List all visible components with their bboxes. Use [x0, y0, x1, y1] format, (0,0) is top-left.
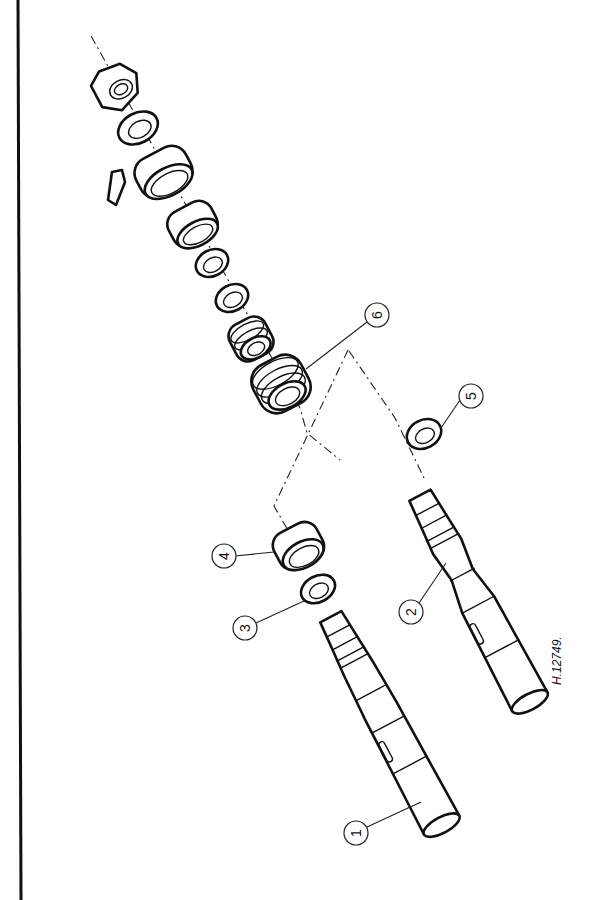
seal-ring-a — [191, 244, 233, 283]
exploded-parts-diagram: 1 2 3 4 5 6 H.12749. — [0, 0, 612, 900]
callout-2-label: 2 — [403, 608, 419, 616]
shaft-2-axis-line — [349, 351, 425, 480]
inner-bush — [162, 196, 224, 256]
callout-3: 3 — [233, 616, 257, 640]
callout-1-label: 1 — [348, 829, 364, 837]
part-1-shaft — [313, 607, 463, 841]
leader-line-3 — [256, 601, 304, 623]
leader-line-5 — [441, 400, 460, 428]
ribbed-seal — [224, 312, 278, 366]
callout-6-label: 6 — [369, 311, 385, 319]
leader-line-6 — [306, 322, 367, 369]
callout-4: 4 — [212, 544, 236, 568]
part-3-washer — [296, 569, 340, 609]
callout-4-label: 4 — [216, 552, 232, 560]
leader-line-2 — [419, 563, 446, 603]
callout-5: 5 — [459, 384, 483, 408]
callout-6: 6 — [365, 303, 389, 327]
seal-ring-b — [211, 279, 253, 318]
callout-3-label: 3 — [237, 624, 253, 632]
part-5-seal — [402, 413, 447, 455]
outer-bush — [129, 140, 200, 207]
part-4-bush — [268, 517, 331, 578]
figure-reference-code: H.12749. — [550, 636, 564, 685]
hex-nut — [87, 56, 149, 117]
callout-2: 2 — [399, 600, 423, 624]
callout-1: 1 — [344, 821, 368, 845]
part-2-shaft — [402, 486, 551, 718]
leader-line-4 — [235, 552, 274, 556]
page-border-line — [18, 0, 21, 900]
callout-5-label: 5 — [463, 392, 479, 400]
woodruff-key — [108, 170, 125, 205]
split-washer — [112, 105, 163, 151]
